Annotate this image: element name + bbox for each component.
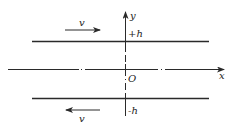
bottom-velocity-label: v xyxy=(79,113,85,124)
origin-label: O xyxy=(128,73,136,84)
y-axis-label: y xyxy=(129,10,136,21)
top-plate-label: +h xyxy=(128,28,143,39)
flow-diagram: v v y x +h O -h xyxy=(0,0,232,128)
top-velocity-label: v xyxy=(79,17,85,28)
bottom-plate-label: -h xyxy=(128,105,138,116)
x-axis-label: x xyxy=(219,70,225,81)
